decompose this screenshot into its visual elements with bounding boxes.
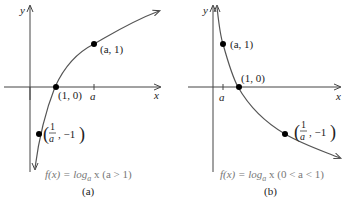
paren-close: ) [79,124,85,145]
fraction-numerator: 1 [50,121,55,132]
panel-label-b: (b) [264,185,277,198]
point-a-1-label: (a, 1) [230,38,254,51]
point-inv-a-neg1-label: ( 1 a , −1 ) [43,121,85,145]
point-inv-a-neg1 [282,131,288,137]
fraction-denominator: a [49,133,54,144]
fraction-numerator: 1 [301,119,306,130]
point-1-0-label: (1, 0) [58,89,82,102]
coord-rest: , −1 [309,126,326,138]
coord-rest: , −1 [58,128,75,140]
point-a-1 [91,41,97,47]
point-a-1-label: (a, 1) [100,43,124,56]
caption-b: f(x) = loga x (0 < a < 1) [220,168,324,183]
point-1-0 [236,84,242,90]
logarithm-graphs-figure: y x a (a, 1) (1, 0) ( 1 a , −1 ) f(x) = … [0,0,345,203]
tick-a-label: a [219,91,225,103]
y-axis-label: y [202,4,208,16]
point-inv-a-neg1 [36,131,42,137]
y-axis-label: y [19,4,25,16]
x-axis-label: x [335,90,341,102]
tick-a-label: a [90,90,96,102]
fraction-denominator: a [300,131,305,142]
panel-label-a: (a) [82,185,95,198]
point-1-0-label: (1, 0) [241,72,265,85]
point-inv-a-neg1-label: ( 1 a , −1 ) [294,119,336,143]
paren-close: ) [330,122,336,143]
panel-a: y x a (a, 1) (1, 0) ( 1 a , −1 ) f(x) = … [4,4,160,198]
panel-b: y x a (a, 1) (1, 0) ( 1 a , −1 ) f(x) = … [188,4,341,198]
x-axis-label: x [153,89,159,101]
log-curve-increasing [35,11,159,168]
point-a-1 [220,41,226,47]
caption-a: f(x) = loga x (a > 1) [45,168,132,183]
